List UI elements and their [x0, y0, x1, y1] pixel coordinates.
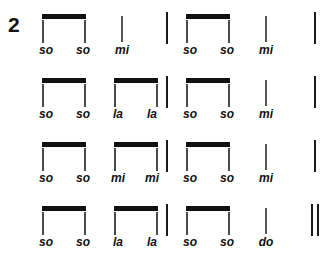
note-stem — [228, 148, 230, 171]
quarter-note-stem — [265, 208, 267, 234]
beamed-note-pair — [186, 206, 230, 211]
barline — [314, 12, 316, 44]
beamed-note-pair — [186, 142, 230, 147]
barline — [166, 140, 168, 172]
beamed-note-pair — [42, 14, 86, 19]
note-stem — [186, 212, 188, 235]
note-stem — [186, 148, 188, 171]
note-stem — [228, 20, 230, 43]
solfege-syllable: so — [183, 108, 197, 120]
barline — [166, 76, 168, 108]
solfege-layer: sosomimisosomi — [0, 172, 335, 192]
beamed-note-pair — [186, 78, 230, 83]
solfege-syllable: so — [76, 108, 90, 120]
solfege-syllable: mi — [259, 44, 273, 56]
solfege-syllable: so — [183, 44, 197, 56]
solfege-syllable: so — [220, 108, 234, 120]
note-stem — [156, 212, 158, 235]
notation-layer — [0, 72, 335, 112]
final-double-barline — [317, 204, 319, 236]
note-stem — [228, 212, 230, 235]
solfege-syllable: la — [113, 108, 123, 120]
staff-row: sosomimisosomi — [0, 136, 335, 200]
note-stem — [42, 212, 44, 235]
solfege-syllable: mi — [145, 172, 159, 184]
notation-layer — [0, 8, 335, 48]
note-stem — [114, 212, 116, 235]
note-stem — [84, 212, 86, 235]
solfege-syllable: so — [39, 172, 53, 184]
barline — [166, 12, 168, 44]
solfege-syllable: so — [183, 236, 197, 248]
beamed-note-pair — [42, 142, 86, 147]
note-stem — [84, 148, 86, 171]
solfege-layer: sosolalasosodo — [0, 236, 335, 256]
note-stem — [186, 20, 188, 43]
solfege-syllable: do — [259, 236, 274, 248]
note-stem — [42, 84, 44, 107]
note-stem — [228, 84, 230, 107]
solfege-syllable: so — [220, 44, 234, 56]
note-stem — [42, 148, 44, 171]
notation-layer — [0, 200, 335, 240]
note-stem — [84, 20, 86, 43]
solfege-syllable: so — [39, 236, 53, 248]
solfege-layer: sosolalasosomi — [0, 108, 335, 128]
note-stem — [156, 84, 158, 107]
barline — [166, 204, 168, 236]
solfege-syllable: la — [147, 108, 157, 120]
beamed-note-pair — [186, 14, 230, 19]
quarter-note-stem — [121, 16, 123, 42]
note-stem — [114, 84, 116, 107]
solfege-layer: sosomisosomi — [0, 44, 335, 64]
note-stem — [156, 148, 158, 171]
solfege-syllable: so — [39, 108, 53, 120]
solfege-syllable: mi — [259, 108, 273, 120]
solfege-syllable: so — [183, 172, 197, 184]
note-stem — [84, 84, 86, 107]
beamed-note-pair — [42, 78, 86, 83]
staff-row: sosolalasosomi — [0, 72, 335, 136]
beamed-note-pair — [114, 78, 158, 83]
beamed-note-pair — [114, 142, 158, 147]
beamed-note-pair — [42, 206, 86, 211]
quarter-note-stem — [265, 16, 267, 42]
barline — [314, 140, 316, 172]
solfege-syllable: so — [220, 172, 234, 184]
barline — [314, 76, 316, 108]
solfege-syllable: so — [76, 236, 90, 248]
quarter-note-stem — [265, 144, 267, 170]
note-stem — [114, 148, 116, 171]
solfege-syllable: mi — [259, 172, 273, 184]
solfege-syllable: so — [76, 44, 90, 56]
solfege-syllable: so — [220, 236, 234, 248]
solfege-syllable: so — [76, 172, 90, 184]
quarter-note-stem — [265, 80, 267, 106]
note-stem — [42, 20, 44, 43]
solfege-syllable: la — [147, 236, 157, 248]
staff-row: sosolalasosodo — [0, 200, 335, 258]
solfege-syllable: la — [113, 236, 123, 248]
note-stem — [186, 84, 188, 107]
solfege-syllable: mi — [111, 172, 125, 184]
notation-layer — [0, 136, 335, 176]
final-double-barline — [311, 204, 313, 236]
solfege-syllable: mi — [115, 44, 129, 56]
solfege-syllable: so — [39, 44, 53, 56]
rhythm-score: 2 sosomisosomisosolalasosomisosomimisoso… — [0, 0, 335, 258]
beamed-note-pair — [114, 206, 158, 211]
staff-row: sosomisosomi — [0, 8, 335, 72]
